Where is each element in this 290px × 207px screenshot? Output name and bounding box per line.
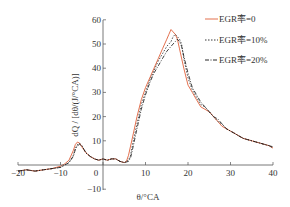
heat-release-rate-chart: −20−10010203040 −10102030405060 dQ / [dθ… bbox=[0, 0, 290, 207]
y-axis-label: dQ / [dθ/(J/°CA)] bbox=[70, 73, 80, 136]
y-tick-label: 10 bbox=[92, 136, 102, 146]
x-tick-label: −20 bbox=[11, 168, 26, 178]
legend-item-egr-0: EGR率=0 bbox=[205, 13, 256, 24]
x-axis-label: θ/°CA bbox=[137, 192, 160, 202]
x-tick-label: 40 bbox=[269, 168, 279, 178]
x-tick-label: 30 bbox=[226, 168, 236, 178]
legend-item-egr-20: EGR率=20% bbox=[205, 54, 268, 65]
plot-area bbox=[18, 30, 273, 172]
legend-label: EGR率=0 bbox=[219, 13, 256, 24]
legend: EGR率=0 EGR率=10% EGR率=20% bbox=[205, 13, 268, 65]
y-tick-label: 30 bbox=[92, 87, 102, 97]
x-tick-label: 10 bbox=[141, 168, 151, 178]
y-tick-label: −10 bbox=[87, 184, 102, 194]
y-tick-label: 60 bbox=[92, 15, 102, 25]
x-tick-label: 20 bbox=[184, 168, 194, 178]
legend-label: EGR率=10% bbox=[219, 34, 268, 45]
y-tick-label: 40 bbox=[92, 63, 102, 73]
x-tick-label: 0 bbox=[94, 168, 99, 178]
x-axis: −20−10010203040 bbox=[11, 162, 278, 178]
y-tick-label: 50 bbox=[92, 39, 102, 49]
y-tick-label: 20 bbox=[92, 112, 102, 122]
x-tick-label: −10 bbox=[53, 168, 68, 178]
series-line-solid bbox=[18, 30, 273, 172]
legend-label: EGR率=20% bbox=[219, 54, 268, 65]
legend-item-egr-10: EGR率=10% bbox=[205, 34, 268, 45]
